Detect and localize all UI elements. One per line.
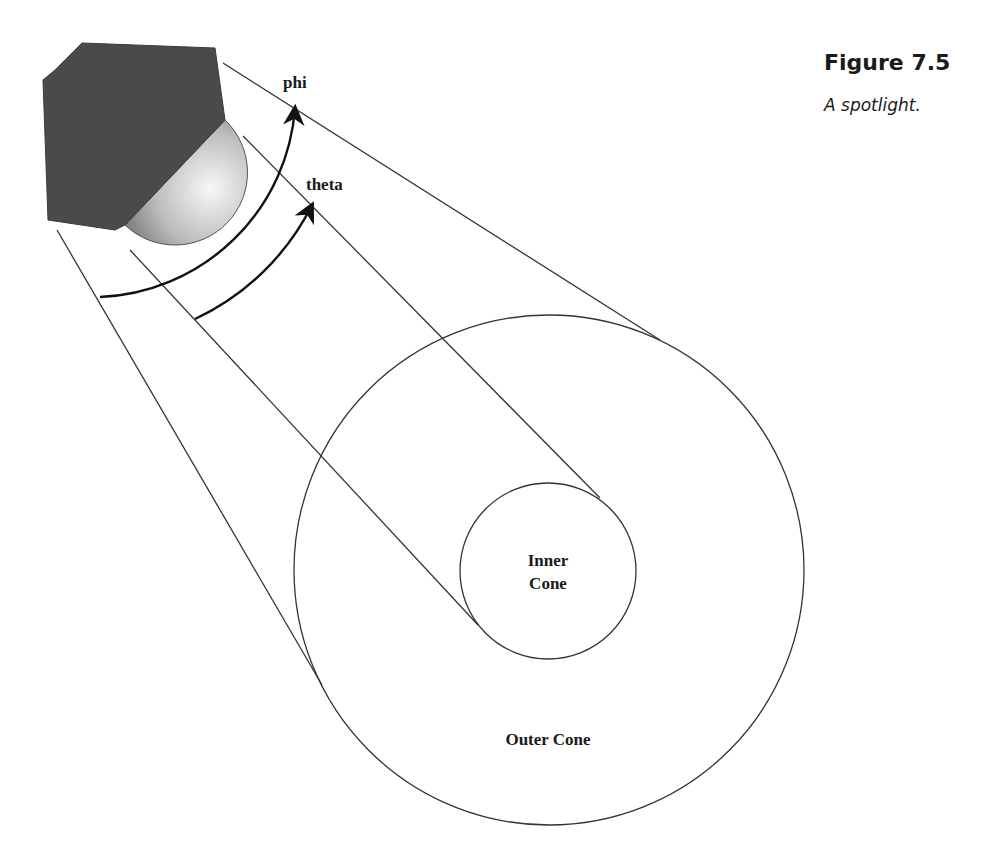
phi-label: phi bbox=[283, 73, 307, 92]
outer-cone-lower-line bbox=[57, 230, 322, 685]
figure-number: Figure 7.5 bbox=[824, 50, 950, 75]
spotlight-diagram: phi theta Inner Cone Outer Cone bbox=[0, 0, 982, 860]
inner-cone-lower-line bbox=[130, 250, 478, 625]
inner-cone-upper-line bbox=[243, 136, 600, 498]
inner-cone-label-line1: Inner bbox=[528, 551, 569, 570]
figure-caption: A spotlight. bbox=[824, 95, 921, 115]
inner-cone-circle bbox=[460, 483, 636, 659]
inner-cone-label-line2: Cone bbox=[529, 574, 567, 593]
outer-cone-label: Outer Cone bbox=[505, 730, 591, 749]
outer-cone-upper-line bbox=[223, 63, 660, 340]
theta-label: theta bbox=[306, 175, 343, 194]
